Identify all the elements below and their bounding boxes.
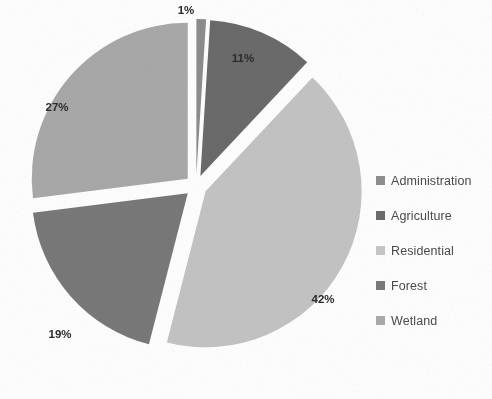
slice-value-label-agriculture: 11%: [232, 52, 254, 64]
legend-swatch-icon: [376, 246, 385, 255]
legend-item-forest[interactable]: Forest: [376, 268, 492, 303]
legend-item-label: Administration: [391, 174, 472, 188]
legend-item-label: Forest: [391, 279, 427, 293]
slice-value-label-administration: 1%: [178, 4, 195, 16]
legend-swatch-icon: [376, 281, 385, 290]
legend-swatch-icon: [376, 211, 385, 220]
chart-legend: AdministrationAgricultureResidentialFore…: [376, 163, 492, 338]
legend-item-agriculture[interactable]: Agriculture: [376, 198, 492, 233]
legend-item-residential[interactable]: Residential: [376, 233, 492, 268]
legend-item-label: Agriculture: [391, 209, 452, 223]
legend-item-label: Residential: [391, 244, 454, 258]
legend-swatch-icon: [376, 176, 385, 185]
pie-chart: 1%11%42%19%27% AdministrationAgriculture…: [0, 0, 492, 399]
legend-item-administration[interactable]: Administration: [376, 163, 492, 198]
slice-value-label-wetland: 27%: [45, 101, 68, 113]
slice-value-label-residential: 42%: [311, 293, 334, 305]
legend-item-wetland[interactable]: Wetland: [376, 303, 492, 338]
legend-item-label: Wetland: [391, 314, 437, 328]
pie-slice-forest[interactable]: [33, 193, 188, 344]
slice-value-label-forest: 19%: [48, 328, 71, 340]
legend-swatch-icon: [376, 316, 385, 325]
pie-slice-residential[interactable]: [167, 78, 362, 348]
